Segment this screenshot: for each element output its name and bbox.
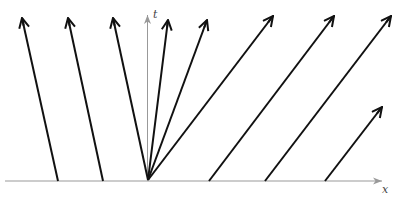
fan-arrow-3: [148, 20, 207, 180]
fan-arrow-4: [148, 16, 273, 180]
characteristic-left-2: [68, 18, 103, 181]
characteristic-right-2: [265, 16, 391, 181]
characteristic-right-1: [209, 16, 334, 181]
fan-arrow-1: [113, 18, 148, 180]
characteristics-diagram: x t: [0, 0, 397, 198]
characteristic-left-1: [22, 18, 58, 181]
x-axis-label: x: [382, 183, 389, 196]
fan-arrow-2: [148, 20, 168, 180]
characteristic-arrows: [22, 16, 391, 181]
characteristic-right-3: [325, 107, 382, 181]
t-axis-label: t: [153, 8, 158, 21]
